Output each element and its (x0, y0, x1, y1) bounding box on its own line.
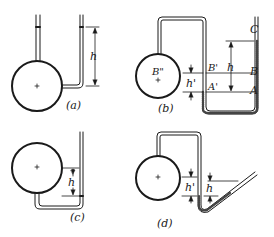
label-h-prime-b: h' (186, 77, 196, 90)
label-c: C (250, 23, 259, 36)
panel-c (12, 132, 83, 209)
panel-a (12, 15, 99, 111)
label-h-prime-d: h' (185, 181, 195, 194)
panel-d (136, 132, 257, 212)
caption-d: (d) (157, 217, 173, 230)
label-h-c: h (68, 176, 75, 189)
label-a: A (249, 84, 258, 97)
caption-b: (b) (158, 102, 174, 115)
label-h-b: h (227, 61, 234, 74)
label-a-prime: A' (207, 81, 218, 92)
label-h-a: h (90, 50, 97, 63)
manometer-diagram: h (a) C B A B' A' B" h h' (b) h (c) h' h… (0, 0, 274, 237)
caption-c: (c) (70, 211, 85, 224)
label-b: B (249, 65, 258, 78)
label-b-prime: B' (207, 62, 218, 73)
caption-a: (a) (66, 99, 81, 112)
label-b-double-prime: B" (151, 66, 164, 77)
label-h-d: h (206, 182, 213, 195)
